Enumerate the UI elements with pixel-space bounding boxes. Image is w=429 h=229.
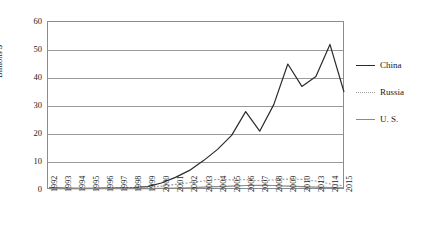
legend-item-u-s[interactable]: U. S. — [356, 114, 404, 124]
x-axis-tick-label: 1995 — [93, 176, 101, 192]
x-axis-tick-label: 1992 — [51, 176, 59, 192]
x-axis-tick-label: 2013 — [318, 176, 326, 192]
series-lines — [48, 22, 345, 190]
legend-swatch — [356, 119, 375, 120]
x-axis-tick-label: 2009 — [290, 176, 298, 192]
x-axis-tick-label: 2010 — [304, 176, 312, 192]
x-axis-tick-label: 1999 — [149, 176, 157, 192]
y-axis-tick-label: 30 — [22, 101, 42, 110]
x-axis-tick-label: 2007 — [262, 176, 270, 192]
x-axis-tick-label: 2014 — [332, 176, 340, 192]
y-axis-tick-label: 20 — [22, 129, 42, 138]
legend-item-china[interactable]: China — [356, 60, 404, 70]
legend-label: China — [380, 60, 402, 70]
series-line-china — [49, 44, 344, 188]
legend-item-russia[interactable]: Russia — [356, 87, 404, 97]
legend-swatch — [356, 65, 375, 66]
y-axis-tick-label: 40 — [22, 73, 42, 82]
x-axis-tick-label: 2004 — [220, 176, 228, 192]
x-axis-tick-label: 1994 — [79, 176, 87, 192]
x-axis-tick-label: 1996 — [107, 176, 115, 192]
x-axis-tick-label: 2005 — [234, 176, 242, 192]
x-axis-tick-label: 2001 — [177, 176, 185, 192]
x-axis-tick-label: 2002 — [191, 176, 199, 192]
legend-label: Russia — [380, 87, 404, 97]
x-axis-tick-label: 2006 — [248, 176, 256, 192]
y-axis-tick-label: 10 — [22, 157, 42, 166]
y-axis-title: Billions $ — [0, 45, 4, 78]
chart-container: Billions $ 0102030405060 199219931994199… — [0, 0, 429, 229]
x-axis-tick-label: 2000 — [163, 176, 171, 192]
x-axis-tick-label: 1993 — [65, 176, 73, 192]
x-axis-tick-label: 2015 — [346, 176, 354, 192]
plot-area — [47, 21, 344, 189]
y-axis-tick-label: 60 — [22, 17, 42, 26]
x-axis-tick-label: 2003 — [206, 176, 214, 192]
legend-label: U. S. — [380, 114, 398, 124]
x-axis-tick-label: 1997 — [121, 176, 129, 192]
chart-legend: ChinaRussiaU. S. — [356, 60, 404, 124]
legend-swatch — [356, 92, 375, 93]
y-axis-tick-label: 0 — [22, 185, 42, 194]
x-axis-tick-label: 2008 — [276, 176, 284, 192]
y-axis-tick-label: 50 — [22, 45, 42, 54]
x-axis-tick-label: 1998 — [135, 176, 143, 192]
